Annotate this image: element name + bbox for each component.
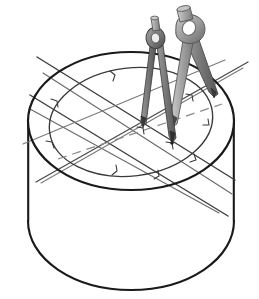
- cylinder-compass-illustration: [0, 0, 259, 299]
- compass-rear-knob-cap: [151, 16, 159, 20]
- illustration-canvas: Cylinder with scribed circle and two dra…: [0, 0, 259, 299]
- center-point-marker: [170, 141, 174, 145]
